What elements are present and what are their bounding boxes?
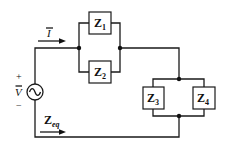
- source-minus-label: −: [16, 100, 22, 111]
- arrow-right-icon: [59, 129, 66, 135]
- node-left: [77, 46, 81, 50]
- current-label: I: [46, 27, 52, 39]
- source-plus-label: +: [16, 71, 22, 82]
- ac-voltage-source: [27, 84, 43, 100]
- impedance-z2: Z2: [89, 61, 111, 83]
- arrow-right-icon: [59, 38, 66, 44]
- node-bottom-z34: [177, 114, 181, 118]
- circuit-diagram: Z1 Z2 Z3 Z4 + V − I Zeq: [0, 0, 230, 149]
- impedance-z3: Z3: [143, 87, 164, 109]
- zeq-indicator: Zeq: [40, 113, 66, 135]
- node-right: [118, 46, 122, 50]
- zeq-label: Zeq: [44, 113, 60, 129]
- sine-wave-icon: [30, 89, 41, 96]
- impedance-z1: Z1: [89, 12, 111, 34]
- current-indicator: I: [38, 27, 66, 44]
- source-voltage-label: V: [15, 86, 23, 98]
- node-top-z34: [177, 77, 181, 81]
- impedance-z4: Z4: [193, 87, 215, 109]
